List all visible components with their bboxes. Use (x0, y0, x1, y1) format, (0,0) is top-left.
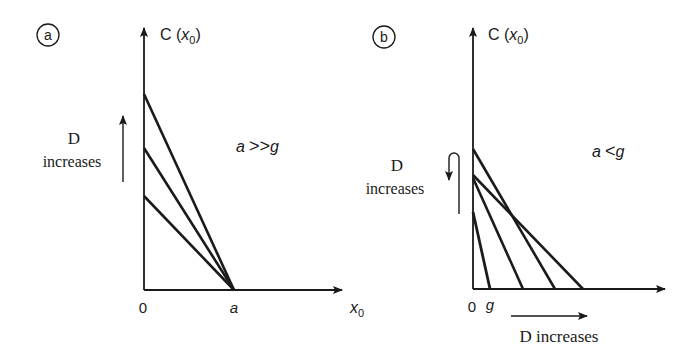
panel-a: a C (x0) D increases a>>g 0 a x0 (37, 24, 364, 319)
panel-b-arrow-label-d: D (391, 156, 403, 175)
panel-b-arrow-label-increases: increases (366, 180, 425, 197)
panel-a-line-low (144, 196, 234, 290)
panel-b-condition: a<g (592, 141, 624, 161)
panel-b: b C (x0) D increases a<g 0 g D increases (366, 26, 665, 346)
panel-a-origin-label: 0 (139, 299, 147, 316)
panel-a-x-axis-label: x0 (349, 299, 364, 319)
panel-b-y-axis-label: C (x0) (488, 26, 529, 46)
panel-b-line-4 (473, 212, 490, 289)
panel-a-arrow-label-increases: increases (43, 153, 102, 170)
panel-b-line-2 (473, 175, 583, 289)
panel-a-condition: a>>g (236, 136, 279, 156)
panel-b-bottom-arrow-label: D increases (520, 327, 599, 346)
panel-b-x-tick-g: g (486, 296, 495, 313)
panel-b-d-increases-hook-arrow (449, 153, 459, 214)
panel-a-badge: a (44, 27, 52, 43)
panel-b-badge: b (380, 29, 388, 45)
diagram-canvas: a C (x0) D increases a>>g 0 a x0 b C (x0… (0, 0, 690, 364)
panel-a-line-mid (144, 148, 234, 290)
panel-a-line-high (144, 94, 234, 290)
panel-b-origin-label: 0 (468, 298, 476, 315)
panel-a-y-axis-label: C (x0) (160, 26, 201, 46)
panel-a-arrow-label-d: D (68, 129, 80, 148)
panel-b-line-3 (473, 178, 523, 289)
panel-a-x-tick-a: a (230, 299, 238, 316)
